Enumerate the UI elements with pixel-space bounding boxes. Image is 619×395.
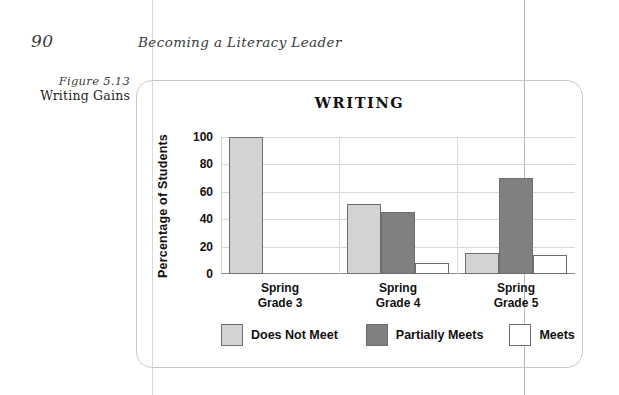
bar: [465, 253, 499, 274]
bar: [229, 137, 263, 274]
x-axis-tick-label: SpringGrade 4: [376, 281, 421, 311]
legend-label: Meets: [539, 328, 574, 342]
legend-item: Partially Meets: [366, 324, 484, 346]
x-axis-tick-label-line: Grade 4: [376, 296, 421, 311]
page-number: 90: [31, 31, 54, 51]
y-axis-tick-label: 40: [200, 212, 213, 226]
gridline: [221, 137, 575, 138]
x-axis-tick-label: SpringGrade 3: [258, 281, 303, 311]
legend-label: Does Not Meet: [251, 328, 338, 342]
bar: [533, 255, 567, 274]
bar: [381, 212, 415, 274]
y-axis-tick-label: 100: [193, 130, 213, 144]
x-axis-tick-label-line: Grade 5: [494, 296, 539, 311]
bar: [347, 204, 381, 274]
chart-title: WRITING: [137, 94, 582, 111]
bar: [499, 178, 533, 274]
x-axis-tick-label-line: Spring: [494, 281, 539, 296]
figure-title: Writing Gains: [18, 88, 130, 103]
bar: [415, 263, 449, 274]
x-axis-tick-label: SpringGrade 5: [494, 281, 539, 311]
chart-legend: Does Not MeetPartially MeetsMeets: [221, 324, 575, 346]
running-head: Becoming a Literacy Leader: [138, 34, 342, 50]
legend-swatch: [221, 324, 243, 346]
legend-label: Partially Meets: [396, 328, 484, 342]
x-axis-tick-label-line: Spring: [258, 281, 303, 296]
legend-swatch: [366, 324, 388, 346]
x-axis-tick-label-line: Spring: [376, 281, 421, 296]
y-axis-tick-label: 20: [200, 240, 213, 254]
y-axis-title: Percentage of Students: [156, 133, 170, 279]
legend-item: Does Not Meet: [221, 324, 338, 346]
x-axis-tick-label-line: Grade 3: [258, 296, 303, 311]
y-axis-tick-label: 0: [206, 267, 213, 281]
y-axis-tick-label: 60: [200, 185, 213, 199]
figure-number: Figure 5.13: [18, 74, 130, 88]
figure-caption: Figure 5.13 Writing Gains: [18, 74, 130, 103]
y-axis-tick-label: 80: [200, 157, 213, 171]
plot-area: 020406080100SpringGrade 3SpringGrade 4Sp…: [221, 137, 575, 274]
legend-swatch: [509, 324, 531, 346]
legend-item: Meets: [509, 324, 574, 346]
vertical-gridline: [457, 137, 458, 274]
vertical-gridline: [339, 137, 340, 274]
gridline: [221, 164, 575, 165]
